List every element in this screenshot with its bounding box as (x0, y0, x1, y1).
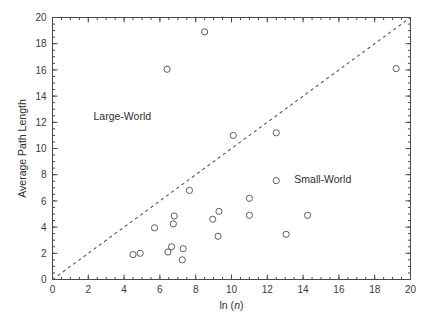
x-tick-label: 18 (369, 284, 381, 295)
identity-line (53, 18, 411, 280)
x-tick-label: 6 (157, 284, 163, 295)
y-tick-label: 12 (35, 117, 47, 128)
x-tick-label: 10 (226, 284, 238, 295)
y-tick-label: 6 (41, 196, 47, 207)
data-point (137, 250, 143, 256)
x-tick-label: 14 (298, 284, 310, 295)
y-tick-label: 10 (35, 143, 47, 154)
data-point (283, 231, 289, 237)
plot-canvas: 02468101214161820 02468101214161820 Larg… (0, 0, 432, 322)
scatter-plot-figure: 02468101214161820 02468101214161820 Larg… (0, 0, 432, 322)
data-point (130, 252, 136, 258)
data-point (186, 187, 192, 193)
y-axis-title: Average Path Length (16, 99, 28, 198)
data-point (164, 66, 170, 72)
data-point (273, 130, 279, 136)
y-tick-label: 18 (35, 38, 47, 49)
y-tick-label: 0 (41, 274, 47, 285)
y-tick-label: 2 (41, 248, 47, 259)
y-axis-tick-labels: 02468101214161820 (35, 12, 47, 285)
x-tick-label: 16 (333, 284, 345, 295)
data-point (170, 221, 176, 227)
x-tick-label: 8 (193, 284, 199, 295)
data-point (246, 212, 252, 218)
data-point (171, 213, 177, 219)
x-axis-tick-labels: 02468101214161820 (50, 284, 417, 295)
data-point (230, 132, 236, 138)
data-point (151, 225, 157, 231)
small-world-label: Small-World (294, 173, 351, 185)
y-tick-label: 16 (35, 65, 47, 76)
x-tick-label: 4 (121, 284, 127, 295)
data-point (304, 212, 310, 218)
y-tick-label: 8 (41, 169, 47, 180)
large-world-label: Large-World (94, 110, 152, 122)
x-tick-label: 12 (262, 284, 274, 295)
x-tick-label: 2 (86, 284, 92, 295)
data-point (216, 208, 222, 214)
data-point (215, 233, 221, 239)
data-point (179, 257, 185, 263)
data-point-series (130, 29, 399, 263)
x-tick-label: 20 (405, 284, 417, 295)
x-tick-label: 0 (50, 284, 56, 295)
data-point (210, 216, 216, 222)
y-tick-label: 20 (35, 12, 47, 23)
axis-titles: ln (n)Average Path Length (16, 99, 244, 310)
y-tick-label: 14 (35, 91, 47, 102)
data-point (202, 29, 208, 35)
data-point (168, 244, 174, 250)
data-point (180, 246, 186, 252)
data-point (273, 177, 279, 183)
data-point (246, 195, 252, 201)
data-point (393, 65, 399, 71)
y-tick-label: 4 (41, 222, 47, 233)
region-annotations: Large-WorldSmall-World (94, 110, 352, 185)
identity-reference-line (53, 18, 411, 280)
x-axis-title: ln (n) (220, 299, 244, 311)
